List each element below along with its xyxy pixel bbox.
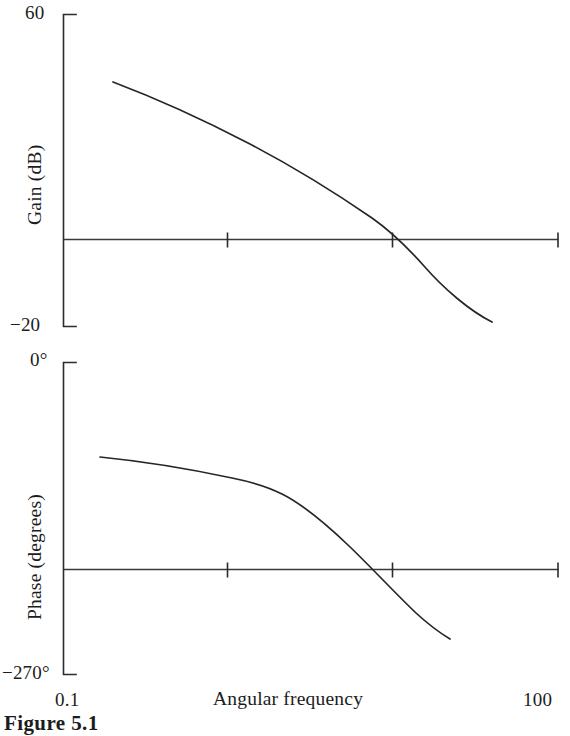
phase-y-axis xyxy=(64,363,77,675)
gain-y-top-tick-label: 60 xyxy=(25,2,44,24)
gain-plot-group xyxy=(64,15,559,327)
x-axis-title: Angular frequency xyxy=(213,688,363,710)
figure-caption: Figure 5.1 xyxy=(4,711,99,736)
phase-curve xyxy=(100,457,450,639)
x-axis-right-tick-label: 100 xyxy=(523,689,552,711)
gain-y-axis-title: Gain (dB) xyxy=(24,145,46,225)
phase-y-bottom-tick-label: −270° xyxy=(2,662,50,684)
phase-y-axis-title: Phase (degrees) xyxy=(24,494,46,620)
gain-y-bottom-tick-label: −20 xyxy=(10,314,40,336)
gain-y-axis xyxy=(64,15,77,327)
gain-curve xyxy=(113,82,492,322)
x-axis-left-tick-label: 0.1 xyxy=(55,689,79,711)
phase-plot-group xyxy=(64,363,559,675)
phase-y-top-tick-label: 0° xyxy=(30,349,48,371)
